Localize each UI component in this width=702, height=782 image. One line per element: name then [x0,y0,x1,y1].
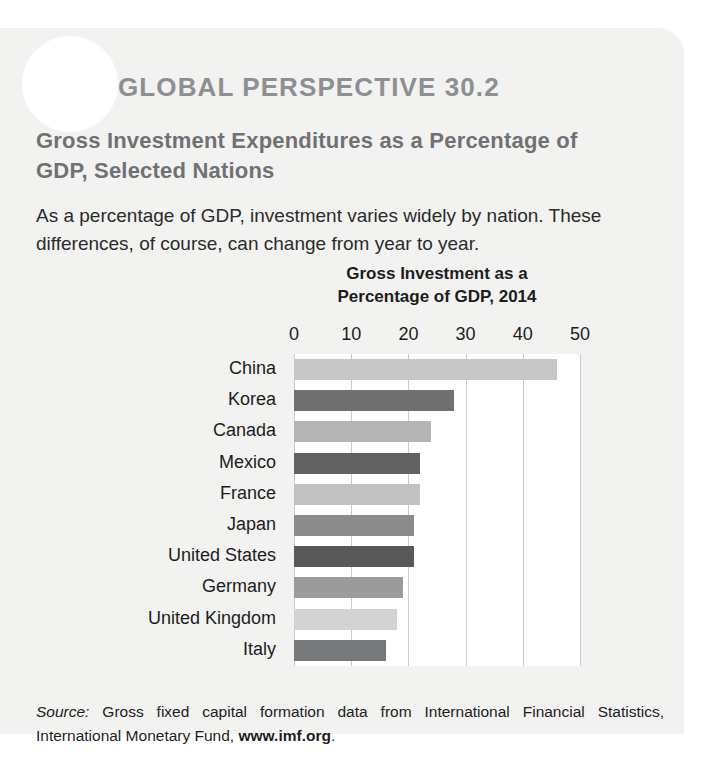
category-label: Mexico [219,452,276,473]
bar-row [294,416,580,447]
globe-icon [22,36,118,132]
bar-row [294,604,580,635]
x-axis-tick-label: 10 [341,324,361,345]
bar-row [294,354,580,385]
category-label: China [229,358,276,379]
bar-row [294,510,580,541]
category-label: Japan [227,514,276,535]
bar-chart: Gross Investment as a Percentage of GDP,… [0,262,684,682]
bar-row [294,541,580,572]
bar [294,546,414,567]
category-label: United States [168,545,276,566]
bar [294,640,386,661]
source-label: Source: [36,703,89,720]
category-label: Korea [228,389,276,410]
bar-row [294,635,580,666]
bar-row [294,479,580,510]
category-row: Mexico [0,448,286,479]
category-row: Korea [0,385,286,416]
bar [294,484,420,505]
bar [294,577,403,598]
category-label: Germany [202,576,276,597]
figure-headline: Gross Investment Expenditures as a Perce… [36,126,596,186]
bar [294,390,454,411]
category-row: Italy [0,635,286,666]
bar-row [294,448,580,479]
bar-row [294,385,580,416]
category-label: United Kingdom [148,608,276,629]
category-row: Canada [0,416,286,447]
category-label: Italy [243,639,276,660]
source-note: Source: Gross fixed capital formation da… [36,700,664,748]
bar [294,609,397,630]
category-row: France [0,479,286,510]
y-axis-category-labels: ChinaKoreaCanadaMexicoFranceJapanUnited … [0,354,286,666]
bar [294,421,431,442]
bar [294,515,414,536]
figure-description: As a percentage of GDP, investment varie… [36,202,676,258]
bar [294,453,420,474]
chart-title-line-2: Percentage of GDP, 2014 [294,285,580,308]
chart-title: Gross Investment as a Percentage of GDP,… [294,262,580,308]
category-label: France [220,483,276,504]
global-perspective-label: GLOBAL PERSPECTIVE 30.2 [118,72,500,103]
category-row: United Kingdom [0,604,286,635]
category-row: Germany [0,572,286,603]
source-text: Gross fixed capital formation data from … [36,703,664,744]
chart-title-line-1: Gross Investment as a [294,262,580,285]
x-axis-tick-label: 0 [289,324,299,345]
globe-icon-backplate [22,36,118,132]
category-label: Canada [213,420,276,441]
bar-series [294,354,580,666]
x-axis-tick-labels: 01020304050 [0,324,684,348]
category-row: United States [0,541,286,572]
source-url[interactable]: www.imf.org [238,727,330,744]
global-perspective-figure: GLOBAL PERSPECTIVE 30.2 Gross Investment… [0,0,702,782]
x-axis-tick-label: 40 [513,324,533,345]
x-axis-tick-label: 20 [398,324,418,345]
category-row: China [0,354,286,385]
bar-row [294,572,580,603]
bar [294,359,557,380]
source-period: . [331,727,335,744]
x-axis-tick-label: 50 [570,324,590,345]
gridline [580,354,581,666]
x-axis-tick-label: 30 [456,324,476,345]
category-row: Japan [0,510,286,541]
